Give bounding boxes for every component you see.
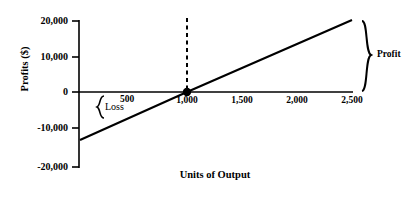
profit-annotation-label: Profit [377,49,401,59]
x-tick-label-1000: 1,000 [165,95,209,105]
y-axis-title: Profits ($) [17,29,31,109]
loss-annotation-label: Loss [105,101,124,112]
profit-line [80,20,352,140]
x-tick-label-1500: 1,500 [220,95,264,105]
profit-chart: Profits ($) 20,000 10,000 0 -10,000 -20,… [0,0,417,204]
x-tick-label-2500: 2,500 [330,95,374,105]
x-axis-title: Units of Output [125,169,305,180]
y-tick-label-10000: 10,000 [12,51,68,62]
loss-brace-icon [97,96,104,118]
profit-brace-icon [362,21,371,91]
x-tick-label-2000: 2,000 [275,95,319,105]
y-tick-label-neg20000: -20,000 [12,161,68,172]
y-tick-label-0: 0 [12,86,68,97]
y-tick-label-neg10000: -10,000 [12,122,68,133]
y-tick-label-20000: 20,000 [12,15,68,26]
